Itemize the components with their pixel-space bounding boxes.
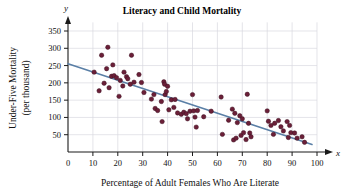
- x-tick-label: 90: [288, 158, 297, 168]
- scatter-point: [117, 94, 121, 98]
- scatter-point: [92, 70, 96, 74]
- scatter-point: [99, 53, 103, 57]
- scatter-point: [245, 92, 249, 96]
- scatter-point: [272, 121, 276, 125]
- scatter-point: [155, 108, 159, 112]
- scatter-point: [271, 132, 275, 136]
- scatter-point: [265, 109, 269, 113]
- x-tick-label: 30: [138, 158, 147, 168]
- y-axis-variable-label: y: [63, 3, 68, 13]
- scatter-point: [195, 108, 199, 112]
- scatter-point: [132, 80, 136, 84]
- scatter-point: [230, 107, 234, 111]
- scatter-point: [137, 72, 141, 76]
- y-axis-caption-line1: Under-Five Mortality: [8, 47, 18, 129]
- y-tick-label: 250: [48, 61, 61, 71]
- scatter-point: [111, 63, 115, 67]
- y-tick-label: 100: [48, 112, 61, 122]
- scatter-point: [302, 140, 306, 144]
- scatter-point: [107, 85, 111, 89]
- scatter-point: [241, 130, 245, 134]
- scatter-point: [159, 99, 163, 103]
- scatter-point: [246, 121, 250, 125]
- x-tick-label: 20: [114, 158, 123, 168]
- scatter-point: [104, 66, 108, 70]
- scatter-point: [106, 45, 110, 49]
- scatter-point: [152, 92, 156, 96]
- scatter-point: [279, 125, 283, 129]
- scatter-point: [240, 117, 244, 121]
- x-tick-label: 10: [89, 158, 98, 168]
- chart-title: Literacy and Child Mortality: [123, 6, 242, 16]
- x-tick-label: 70: [238, 158, 247, 168]
- scatter-point: [173, 97, 177, 101]
- x-tick-label: 60: [213, 158, 222, 168]
- scatter-point: [172, 105, 176, 109]
- scatter-point: [102, 81, 106, 85]
- scatter-point: [244, 137, 248, 141]
- y-tick-label: 300: [48, 43, 61, 53]
- scatter-point: [234, 136, 238, 140]
- y-tick-label: 50: [53, 130, 62, 140]
- scatter-point: [164, 89, 168, 93]
- x-tick-label: 80: [263, 158, 272, 168]
- x-tick-label: 50: [188, 158, 197, 168]
- scatter-point: [122, 70, 126, 74]
- scatter-point: [286, 135, 290, 139]
- scatter-point: [266, 119, 270, 123]
- scatter-point: [114, 75, 118, 79]
- scatter-point: [249, 135, 253, 139]
- scatter-point: [281, 129, 285, 133]
- scatter-point: [121, 84, 125, 88]
- y-tick-label: 150: [48, 95, 61, 105]
- scatter-point: [300, 135, 304, 139]
- scatter-point: [129, 53, 133, 57]
- scatter-point: [285, 119, 289, 123]
- x-tick-label: 0: [66, 158, 70, 168]
- scatter-plot-svg: 0102030405060708090100 50100150200250300…: [0, 0, 346, 193]
- scatter-point: [165, 84, 169, 88]
- scatter-point: [139, 80, 143, 84]
- x-tick-label: 100: [311, 158, 324, 168]
- literacy-child-mortality-figure: 0102030405060708090100 50100150200250300…: [0, 0, 346, 193]
- scatter-point: [233, 111, 237, 115]
- scatter-point: [118, 78, 122, 82]
- scatter-point: [97, 89, 101, 93]
- scatter-point: [295, 136, 299, 140]
- scatter-point: [220, 132, 224, 136]
- x-axis-caption: Percentage of Adult Females Who Are Lite…: [101, 178, 279, 188]
- x-axis-variable-label: x: [335, 148, 340, 158]
- scatter-point: [202, 115, 206, 119]
- scatter-point: [126, 77, 130, 81]
- y-axis-caption-line2: (per thousand): [21, 60, 32, 115]
- scatter-point: [219, 95, 223, 99]
- scatter-point: [276, 118, 280, 122]
- scatter-point: [287, 123, 291, 127]
- scatter-point: [167, 108, 171, 112]
- scatter-point: [235, 120, 239, 124]
- scatter-point: [292, 131, 296, 135]
- scatter-point: [209, 109, 213, 113]
- scatter-point: [194, 125, 198, 129]
- y-tick-label: 200: [48, 78, 61, 88]
- scatter-point: [193, 115, 197, 119]
- scatter-point: [190, 92, 194, 96]
- scatter-point: [160, 119, 164, 123]
- x-tick-label: 40: [163, 158, 172, 168]
- scatter-point: [185, 117, 189, 121]
- scatter-point: [142, 90, 146, 94]
- scatter-point: [149, 97, 153, 101]
- scatter-point: [226, 118, 230, 122]
- y-tick-label: 350: [48, 26, 61, 36]
